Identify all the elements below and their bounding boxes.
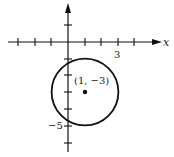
center-point-label: (1, −3) [74, 75, 109, 86]
center-point [83, 90, 87, 94]
x-axis-arrow-icon [152, 39, 162, 45]
x-axis-label: x [163, 36, 170, 49]
coordinate-plot: x 3 −5 (1, −3) [0, 0, 174, 157]
y-axis: −5 [48, 3, 72, 152]
x-axis: x 3 [8, 36, 170, 60]
x-tick-label-3: 3 [114, 49, 120, 60]
y-tick-label-neg5: −5 [48, 120, 63, 131]
y-axis-arrow-icon [65, 3, 71, 13]
